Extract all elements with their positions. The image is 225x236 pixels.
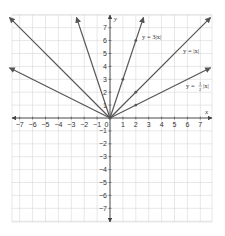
x-tick-label: 7: [198, 121, 202, 128]
x-tick-label: 5: [173, 121, 177, 128]
x-tick-label: −2: [80, 121, 88, 128]
label-y-equals-half-abs-x: y = 1 2 |x|: [186, 81, 209, 92]
graph-canvas: −7−6−5−4−3−2−101234567−7−6−5−4−3−2−11234…: [0, 0, 225, 236]
y-tick-label: 7: [103, 24, 107, 31]
label-y-equals-abs-x: y = |x|: [183, 47, 199, 54]
y-tick-label: 2: [103, 89, 107, 96]
x-tick-label: −6: [29, 121, 37, 128]
x-tick-label: 3: [147, 121, 151, 128]
y-tick-label: −1: [99, 127, 107, 134]
x-tick-label: 2: [134, 121, 138, 128]
coordinate-plane-figure: −7−6−5−4−3−2−101234567−7−6−5−4−3−2−11234…: [0, 0, 225, 236]
data-point: [134, 104, 137, 107]
y-tick-label: 3: [103, 76, 107, 83]
y-tick-label: 5: [103, 50, 107, 57]
y-axis-label: y: [113, 15, 118, 23]
y-tick-label: 4: [103, 63, 107, 70]
x-tick-label: 6: [185, 121, 189, 128]
y-tick-label: 6: [103, 37, 107, 44]
x-tick-label: 1: [121, 121, 125, 128]
y-tick-label: −4: [99, 166, 107, 173]
x-tick-label: −5: [42, 121, 50, 128]
svg-text:y =: y =: [186, 82, 195, 89]
x-tick-label: −3: [67, 121, 75, 128]
fraction-denominator: 2: [199, 87, 201, 92]
data-point: [134, 39, 137, 42]
y-tick-label: −3: [99, 153, 107, 160]
y-tick-label: −7: [99, 205, 107, 212]
origin-point: [108, 116, 111, 119]
x-axis-label: x: [204, 108, 209, 116]
y-tick-label: −5: [99, 179, 107, 186]
y-tick-label: −6: [99, 192, 107, 199]
x-tick-label: −7: [16, 121, 24, 128]
y-tick-label: −2: [99, 140, 107, 147]
svg-text:|x|: |x|: [203, 82, 209, 89]
x-tick-label: −4: [54, 121, 62, 128]
fraction-numerator: 1: [199, 81, 201, 86]
data-point: [122, 78, 125, 81]
x-tick-label: 4: [160, 121, 164, 128]
label-y-equals-3-abs-x: y = 3|x|: [142, 33, 161, 40]
data-point: [134, 91, 137, 94]
